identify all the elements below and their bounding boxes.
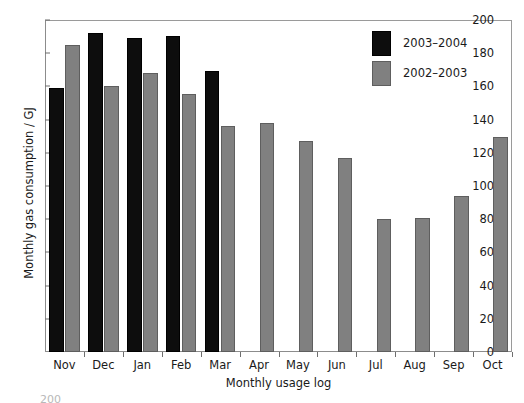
y-axis-tick-label: 120 [472,146,494,160]
x-axis-title: Monthly usage log [45,376,512,390]
x-axis-tick-label: Oct [483,358,503,372]
bar [205,71,220,352]
legend-item-2002-2003: 2002–2003 [372,58,502,88]
x-axis-tick-label: Jan [133,358,151,372]
legend-label: 2003–2004 [403,36,467,50]
x-axis-tick-label: Jun [328,358,346,372]
bar [377,219,392,352]
y-axis-tick-label: 20 [480,312,494,326]
x-axis-tick-label: Sep [443,358,465,372]
legend-swatch-icon [372,31,391,56]
x-axis-tick-mark [123,352,124,357]
bar [260,123,275,352]
x-axis-tick-mark [162,352,163,357]
x-axis-tick-mark [512,352,513,357]
y-axis-tick-mark [45,86,50,87]
bar [88,33,103,352]
chart-legend: 2003–2004 2002–2003 [372,28,502,88]
y-axis-tick-mark [45,53,50,54]
y-axis-tick-label: 100 [472,179,494,193]
bar [166,36,181,352]
x-axis-tick-label: Nov [53,358,75,372]
page-artifact-text: 200 [40,394,61,403]
y-axis-tick-mark [45,20,50,21]
bar [299,141,314,352]
y-axis-tick-label: 200 [472,13,494,27]
legend-label: 2002–2003 [403,66,467,80]
gas-consumption-bar-chart: 020406080100120140160180200 Monthly gas … [0,0,524,403]
x-axis-tick-mark [395,352,396,357]
bar [143,73,158,352]
x-axis-tick-mark [240,352,241,357]
bar [65,45,80,352]
y-axis-tick-label: 60 [480,245,494,259]
x-axis-tick-mark [279,352,280,357]
bar [338,158,353,352]
x-axis-tick-mark [84,352,85,357]
bar [454,196,469,352]
x-axis-tick-label: Dec [92,358,114,372]
bar [415,218,430,352]
x-axis-tick-mark [434,352,435,357]
bar [49,88,64,352]
legend-swatch-icon [372,61,391,86]
bar [127,38,142,352]
x-axis-tick-label: Feb [171,358,191,372]
bar [104,86,119,352]
x-axis-tick-mark [201,352,202,357]
x-axis-tick-label: Jul [369,358,383,372]
x-axis-tick-label: Mar [209,358,231,372]
bar [221,126,236,352]
y-axis-tick-label: 140 [472,113,494,127]
bar [182,94,197,352]
x-axis-tick-label: Apr [249,358,269,372]
bar [493,137,508,352]
x-axis-tick-label: Aug [403,358,425,372]
y-axis-title: Monthly gas consumption / GJ [22,43,36,343]
y-axis-tick-label: 80 [480,212,494,226]
y-axis-tick-label: 40 [480,279,494,293]
x-axis-tick-mark [473,352,474,357]
x-axis-tick-label: May [286,358,310,372]
x-axis-tick-mark [317,352,318,357]
legend-item-2003-2004: 2003–2004 [372,28,502,58]
x-axis-tick-mark [356,352,357,357]
